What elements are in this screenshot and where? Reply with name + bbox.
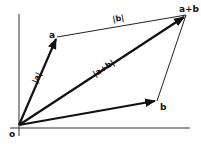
side-b-to-aplusb xyxy=(157,15,186,101)
label-a: a xyxy=(49,30,55,40)
label-b: b xyxy=(160,102,167,112)
norm-label-b: |b| xyxy=(112,13,125,24)
label-origin: o xyxy=(9,129,15,139)
vector-b-arrow xyxy=(19,101,155,125)
label-a-plus-b: a+b xyxy=(179,4,200,14)
norm-label-a-plus-b: |a+b| xyxy=(91,58,116,78)
vector-diagram: o a b a+b |a| |b| |a+b| xyxy=(0,0,201,144)
